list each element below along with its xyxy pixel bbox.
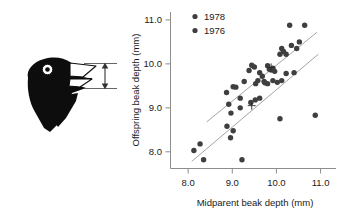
legend-label-1976: 1976 xyxy=(204,25,225,36)
scatter-plot: 8.09.010.011.0 8.09.010.011.0 Offspring … xyxy=(130,11,336,208)
data-point[interactable] xyxy=(313,113,318,118)
x-axis-title: Midparent beak depth (mm) xyxy=(197,197,314,208)
data-point[interactable] xyxy=(270,78,275,83)
data-point[interactable] xyxy=(228,135,233,140)
data-point[interactable] xyxy=(226,102,231,107)
y-tick-label: 8.0 xyxy=(149,146,162,157)
y-tick-label: 10.0 xyxy=(144,58,163,69)
legend-marker-1976 xyxy=(192,28,197,33)
y-tick-label: 9.0 xyxy=(149,102,162,113)
data-point[interactable] xyxy=(283,71,288,76)
data-point[interactable] xyxy=(224,90,229,95)
data-point[interactable] xyxy=(277,116,282,121)
y-axis-ticks: 8.09.010.011.0 xyxy=(144,14,171,157)
data-point[interactable] xyxy=(283,52,288,57)
x-tick-label: 8.0 xyxy=(182,177,195,188)
data-point[interactable] xyxy=(255,78,260,83)
legend-label-1978: 1978 xyxy=(204,11,225,22)
data-point[interactable] xyxy=(265,81,270,86)
data-point[interactable] xyxy=(257,95,262,100)
y-tick-label: 11.0 xyxy=(144,14,162,25)
data-point[interactable] xyxy=(201,157,206,162)
data-point[interactable] xyxy=(228,110,233,115)
data-point[interactable] xyxy=(239,157,244,162)
x-tick-label: 9.0 xyxy=(226,177,239,188)
data-points-1978[interactable] xyxy=(224,22,308,115)
data-point[interactable] xyxy=(291,70,296,75)
x-tick-label: 10.0 xyxy=(267,177,286,188)
legend: 1978 1976 xyxy=(192,11,225,36)
figure-svg: 8.09.010.011.0 8.09.010.011.0 Offspring … xyxy=(0,0,350,215)
data-point[interactable] xyxy=(230,128,235,133)
finch-lower-beak xyxy=(69,79,92,87)
data-point[interactable] xyxy=(238,95,243,100)
figure-container: 8.09.010.011.0 8.09.010.011.0 Offspring … xyxy=(0,0,350,215)
finch-upper-beak xyxy=(70,63,96,77)
data-point[interactable] xyxy=(260,73,265,78)
data-point[interactable] xyxy=(252,64,257,69)
finch-head-diagram xyxy=(28,58,117,132)
data-point[interactable] xyxy=(224,124,229,129)
data-point[interactable] xyxy=(302,22,307,27)
data-point[interactable] xyxy=(279,78,284,83)
trend-lines xyxy=(192,32,319,161)
data-point[interactable] xyxy=(191,148,196,153)
data-point[interactable] xyxy=(242,79,247,84)
x-axis-ticks: 8.09.010.011.0 xyxy=(182,169,330,189)
legend-marker-1978 xyxy=(192,14,197,19)
trend-line-1976 xyxy=(192,54,319,161)
x-tick-label: 11.0 xyxy=(312,177,330,188)
data-point[interactable] xyxy=(246,68,251,73)
data-point[interactable] xyxy=(272,69,277,74)
data-point[interactable] xyxy=(233,84,238,89)
finch-eye-pupil xyxy=(45,67,50,72)
y-axis-title: Offspring beak depth (mm) xyxy=(130,34,141,147)
data-point[interactable] xyxy=(287,22,292,27)
data-point[interactable] xyxy=(238,105,243,110)
data-point[interactable] xyxy=(294,46,299,51)
data-point[interactable] xyxy=(197,141,202,146)
data-point[interactable] xyxy=(297,39,302,44)
data-point[interactable] xyxy=(289,43,294,48)
